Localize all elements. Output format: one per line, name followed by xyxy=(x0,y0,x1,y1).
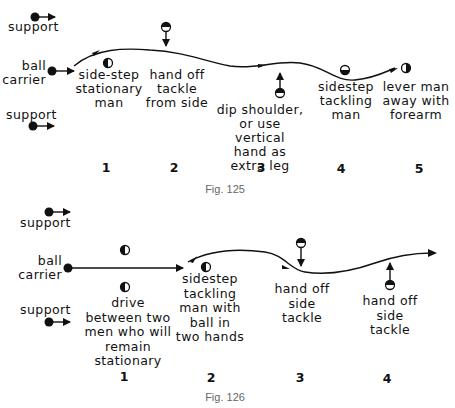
fig126-step4-number: 4 xyxy=(377,371,397,386)
fig125-defender-lever-icon xyxy=(402,64,411,73)
diagram-drawing xyxy=(0,0,455,408)
fig126-support-bottom-label: support xyxy=(18,303,73,317)
fig126-ball-carrier-label: ball carrier xyxy=(14,254,62,282)
fig125-support-top-label: support xyxy=(6,20,61,34)
fig125-step3-number: 3 xyxy=(251,160,271,175)
fig125-defender-tackling-icon xyxy=(341,66,350,75)
fig126-step3-number: 3 xyxy=(290,370,310,385)
fig125-step5-number: 5 xyxy=(409,161,429,176)
fig126-path-arrow-2 xyxy=(282,265,290,269)
fig125-defender-tackling-side-icon xyxy=(162,23,171,47)
fig125-step1-label: side-step stationary man xyxy=(74,68,144,110)
fig126-support-bottom-player xyxy=(45,318,71,327)
fig125-step2-number: 2 xyxy=(164,160,184,175)
fig125-step4-number: 4 xyxy=(331,161,351,176)
fig126-support-top-label: support xyxy=(18,216,73,230)
fig125-step5-label: lever man away with forearm xyxy=(379,80,453,122)
fig126-caption: Fig. 126 xyxy=(185,391,265,403)
fig126-stationary-defender-bottom-icon xyxy=(121,283,130,292)
fig126-side-tackle-bottom-icon xyxy=(386,263,395,290)
fig125-support-bottom-label: support xyxy=(4,108,59,122)
fig126-step4-label: hand off side tackle xyxy=(358,294,422,338)
fig126-step3-label: hand off side tackle xyxy=(270,282,334,326)
fig126-path-arrow-1 xyxy=(190,256,197,263)
fig125-step4-label: sidestep tackling man xyxy=(317,80,375,122)
fig125-step2-label: hand off tackle from side xyxy=(144,68,210,110)
fig125-ball-carrier-label: ball carrier xyxy=(0,59,46,87)
fig126-step2-number: 2 xyxy=(201,370,221,385)
fig125-ball-carrier-player xyxy=(48,67,75,76)
fig126-side-tackle-top-icon xyxy=(297,239,306,267)
fig126-step2-label: sidestep tackling man with ball in two h… xyxy=(175,272,245,345)
fig126-step1-label: drive between two men who will remain st… xyxy=(84,296,172,369)
fig125-path-arrow-3 xyxy=(389,68,398,73)
fig126-path-arrow-3 xyxy=(428,249,437,257)
fig125-caption: Fig. 125 xyxy=(185,183,265,195)
fig125-step1-number: 1 xyxy=(96,160,116,175)
fig126-ball-carrier-player xyxy=(64,264,184,273)
fig125-defender-below-icon xyxy=(276,73,285,98)
fig126-run-path xyxy=(188,250,432,273)
fig126-step1-number: 1 xyxy=(114,369,134,384)
fig126-stationary-defender-top-icon xyxy=(121,246,130,255)
fig125-support-bottom-player xyxy=(29,122,55,131)
